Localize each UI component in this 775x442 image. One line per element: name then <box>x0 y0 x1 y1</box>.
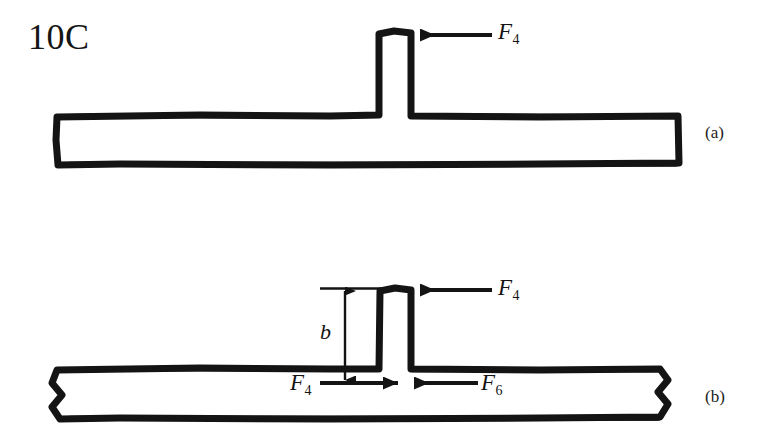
force-symbol: F <box>290 370 304 395</box>
dimension-label-b: b <box>320 321 331 343</box>
force-label-f4-mid: F4 <box>498 276 519 299</box>
force-symbol: F <box>498 275 512 300</box>
panel-tag-b: (b) <box>705 388 725 405</box>
force-label-f6-lower: F6 <box>481 371 502 394</box>
force-symbol: F <box>481 370 495 395</box>
force-subscript: 4 <box>513 288 520 303</box>
panel-a-linework <box>56 31 679 165</box>
force-subscript: 4 <box>513 32 520 47</box>
force-label-f4-top: F4 <box>498 20 519 43</box>
panel-tag-a: (a) <box>705 124 724 141</box>
panel-a-bottom-edge-texture <box>70 164 676 165</box>
figure-linework <box>0 0 775 442</box>
force-subscript: 4 <box>305 383 312 398</box>
panel-b-bottom-edge-texture <box>70 418 658 419</box>
figure-container: 10C F4 F4 F4 F6 b (a) (b) <box>0 0 775 442</box>
panel-b-beam-outline <box>52 288 668 419</box>
force-symbol: F <box>498 19 512 44</box>
figure-header-code: 10C <box>28 19 90 55</box>
panel-a-top-edge-texture-right <box>412 116 676 117</box>
panel-a-beam-outline <box>56 31 679 165</box>
force-label-f4-lower: F4 <box>290 371 311 394</box>
panel-b-linework <box>52 288 668 419</box>
panel-b-top-edge-texture-right <box>412 369 658 370</box>
panel-a-top-edge-texture <box>70 116 378 117</box>
panel-b-top-edge-texture <box>70 369 378 370</box>
force-subscript: 6 <box>496 383 503 398</box>
